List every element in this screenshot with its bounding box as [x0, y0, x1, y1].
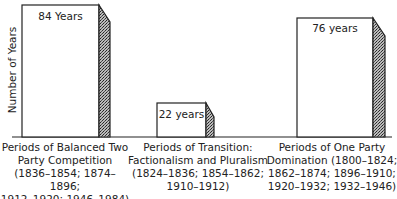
- bar-one-party-domination: [297, 18, 385, 137]
- y-axis-label: Number of Years: [6, 20, 18, 120]
- bar-value-label: 76 years: [297, 22, 373, 34]
- bar-value-label: 22 years: [157, 108, 206, 120]
- category-label: Periods of Transition: Factionalism and …: [128, 141, 268, 193]
- category-label: Periods of One Party Domination (1800–18…: [266, 141, 397, 193]
- bar-balanced-competition: [22, 5, 110, 137]
- bar-value-label: 84 Years: [22, 10, 99, 22]
- category-label: Periods of Balanced Two Party Competitio…: [0, 141, 130, 199]
